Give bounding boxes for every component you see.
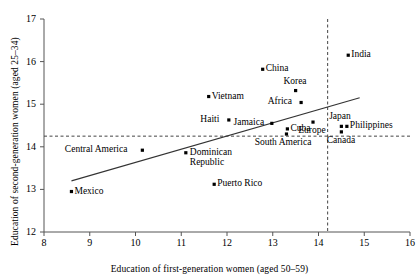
point-label: Puerto Rico (217, 178, 262, 189)
y-tick-label: 14 (8, 141, 36, 152)
point-label: Dominican Republic (190, 147, 242, 168)
data-point (70, 190, 73, 193)
data-point (340, 125, 343, 128)
y-tick-label: 12 (8, 226, 36, 237)
data-point (285, 132, 288, 135)
point-label: Philippines (350, 120, 393, 131)
y-tick-label: 13 (8, 183, 36, 194)
x-tick-label: 9 (70, 237, 110, 248)
x-tick-label: 13 (253, 237, 293, 248)
data-point (261, 68, 264, 71)
data-point (300, 101, 303, 104)
data-point (184, 151, 187, 154)
x-tick-label: 11 (161, 237, 201, 248)
point-label: Korea (283, 76, 306, 87)
point-label: Vietnam (212, 91, 244, 102)
data-point (294, 89, 297, 92)
x-axis-title: Education of first-generation women (age… (0, 264, 419, 274)
point-label: South America (255, 137, 312, 148)
point-label: Haiti (200, 114, 219, 125)
point-label: Africa (268, 96, 292, 107)
scatter-chart: Education of first-generation women (age… (0, 0, 419, 275)
data-point (207, 95, 210, 98)
y-tick-label: 17 (8, 13, 36, 24)
regression-line (71, 98, 359, 181)
x-tick-label: 8 (24, 237, 64, 248)
point-label: Central America (65, 144, 128, 155)
x-tick-label: 16 (390, 237, 419, 248)
data-point (347, 54, 350, 57)
data-point (213, 183, 216, 186)
y-tick-label: 15 (8, 98, 36, 109)
point-label: India (351, 49, 371, 60)
data-point (311, 120, 314, 123)
point-label: Japan (329, 111, 351, 122)
point-label: China (266, 63, 289, 74)
point-label: Canada (327, 135, 356, 146)
x-tick-label: 12 (207, 237, 247, 248)
x-tick-label: 15 (344, 237, 384, 248)
point-label: Jamaica (234, 117, 265, 128)
data-point (227, 118, 230, 121)
x-tick-label: 14 (299, 237, 339, 248)
data-point (270, 122, 273, 125)
point-label: Mexico (74, 186, 103, 197)
data-point (141, 149, 144, 152)
x-tick-label: 10 (116, 237, 156, 248)
data-point (340, 130, 343, 133)
data-point (286, 127, 289, 130)
point-label: Europe (298, 125, 325, 136)
y-tick-label: 16 (8, 56, 36, 67)
plot-canvas (0, 0, 419, 275)
data-point (345, 125, 348, 128)
